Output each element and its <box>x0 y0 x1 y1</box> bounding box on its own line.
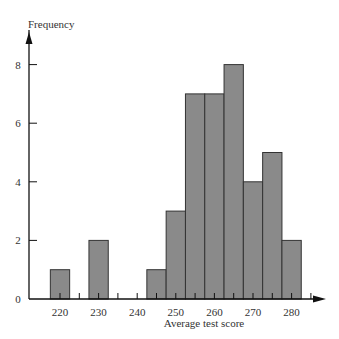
x-axis-arrow-icon <box>313 296 326 303</box>
y-tick-label: 0 <box>15 293 21 305</box>
y-tick-label: 2 <box>15 234 21 246</box>
histogram-bar <box>224 65 243 299</box>
x-tick-label: 270 <box>245 306 262 318</box>
x-tick-label: 230 <box>90 306 107 318</box>
histogram-chart: 02468220230240250260270280FrequencyAvera… <box>0 0 339 339</box>
x-tick-label: 240 <box>129 306 146 318</box>
histogram-bar <box>263 153 282 300</box>
y-axis-arrow-icon <box>26 32 33 44</box>
x-tick-label: 220 <box>52 306 69 318</box>
histogram-bar <box>282 240 301 299</box>
y-tick-label: 6 <box>15 117 21 129</box>
histogram-bar <box>166 211 185 299</box>
histogram-bar <box>185 94 204 299</box>
x-axis-title: Average test score <box>164 317 245 329</box>
y-tick-label: 4 <box>15 176 21 188</box>
histogram-bar <box>243 182 262 299</box>
x-tick-label: 280 <box>283 306 300 318</box>
histogram-bar <box>205 94 224 299</box>
histogram-bar <box>89 240 108 299</box>
y-tick-label: 8 <box>15 59 21 71</box>
y-axis-title: Frequency <box>28 18 75 30</box>
